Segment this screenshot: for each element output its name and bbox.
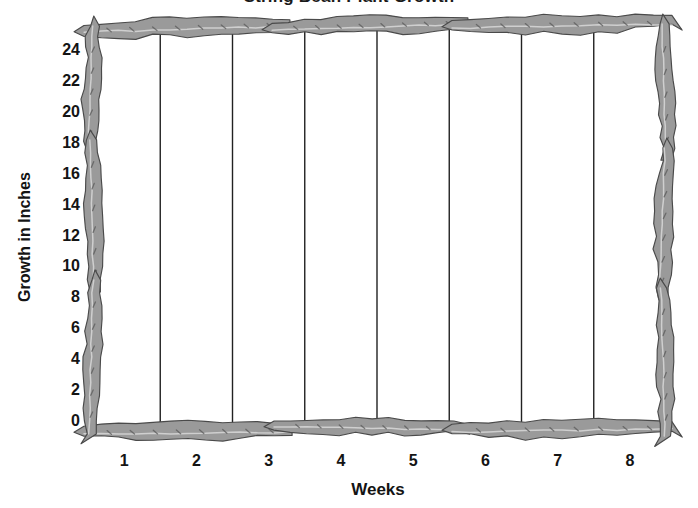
chart-container: String Bean Plant Growth Growth in Inche… xyxy=(0,0,698,508)
plot-area xyxy=(0,0,698,508)
